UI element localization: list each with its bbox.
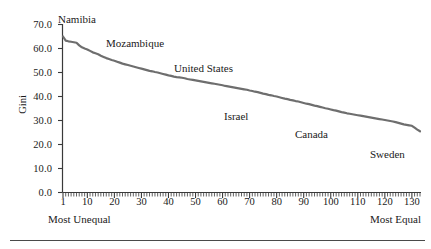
- caption-most-equal: Most Equal: [370, 213, 421, 226]
- caption-most-unequal: Most Unequal: [48, 213, 111, 226]
- bottom-rule: [10, 240, 425, 241]
- annotation-sweden: Sweden: [370, 148, 405, 161]
- annotation-united-states: United States: [174, 62, 233, 75]
- y-axis-tick-marks: [58, 25, 63, 193]
- x-axis-tick-marks: [63, 193, 420, 199]
- annotation-mozambique: Mozambique: [106, 37, 164, 50]
- gini-line-chart-figure: Gini 0.010.020.030.040.050.060.070.0 110…: [0, 0, 431, 249]
- annotation-canada: Canada: [295, 128, 328, 141]
- annotation-israel: Israel: [224, 110, 248, 123]
- plot-area: [0, 0, 431, 249]
- annotation-namibia: Namibia: [58, 13, 96, 26]
